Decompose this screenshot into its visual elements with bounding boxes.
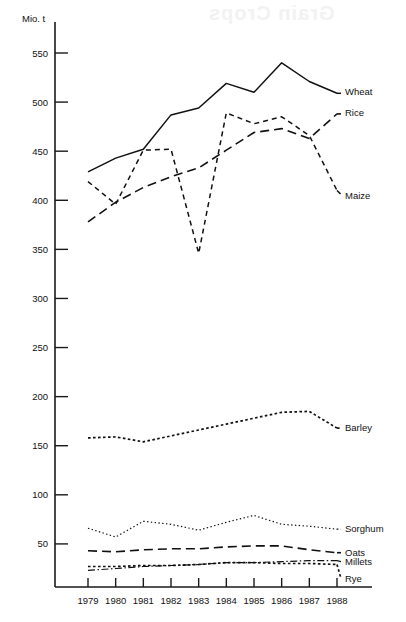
series-label-wheat: Wheat [345, 86, 373, 97]
y-axis-ticks [55, 53, 68, 544]
y-tick-label: 550 [32, 48, 48, 59]
x-tick-label: 1985 [243, 595, 264, 606]
grain-production-line-chart: Grain Crops Mio. t 501001502002503003504… [0, 0, 406, 622]
y-tick-label: 450 [32, 146, 48, 157]
x-tick-label: 1982 [160, 595, 181, 606]
series-line-wheat [88, 63, 337, 172]
y-tick-label: 300 [32, 293, 48, 304]
series-leader-millets [337, 561, 341, 562]
x-tick-label: 1984 [216, 595, 237, 606]
y-tick-label: 200 [32, 391, 48, 402]
x-tick-label: 1979 [77, 595, 98, 606]
x-tick-label: 1988 [326, 595, 347, 606]
series-leader-rye [337, 565, 341, 579]
series-label-rice: Rice [345, 107, 364, 118]
series-lines-group [88, 63, 341, 579]
series-leader-maize [337, 191, 341, 195]
series-label-millets: Millets [345, 556, 372, 567]
x-tick-label: 1980 [105, 595, 126, 606]
y-axis-tick-labels: 50100150200250300350400450500550 [32, 48, 48, 550]
x-tick-label: 1981 [133, 595, 154, 606]
series-line-oats [88, 546, 337, 553]
y-tick-label: 400 [32, 195, 48, 206]
series-line-maize [88, 113, 337, 253]
y-tick-label: 350 [32, 244, 48, 255]
y-axis-unit-label: Mio. t [22, 13, 46, 24]
series-label-rye: Rye [345, 573, 362, 584]
series-label-sorghum: Sorghum [345, 523, 384, 534]
y-tick-label: 150 [32, 440, 48, 451]
x-tick-label: 1983 [188, 595, 209, 606]
series-line-barley [88, 411, 337, 441]
x-axis-tick-labels: 1979198019811982198319841985198619871988 [77, 595, 347, 606]
series-inline-labels-group: WheatRiceMaizeBarleySorghumOatsMilletsRy… [345, 86, 384, 583]
x-axis-ticks [88, 578, 337, 587]
series-label-barley: Barley [345, 422, 372, 433]
series-line-sorghum [88, 515, 337, 537]
series-line-rice [88, 114, 337, 222]
y-tick-label: 50 [37, 538, 48, 549]
page-bleedthrough-watermark: Grain Crops [208, 2, 335, 25]
y-tick-label: 100 [32, 489, 48, 500]
series-label-maize: Maize [345, 190, 370, 201]
x-tick-label: 1986 [271, 595, 292, 606]
y-tick-label: 500 [32, 97, 48, 108]
chart-canvas: Mio. t 50100150200250300350400450500550 … [0, 0, 406, 622]
y-tick-label: 250 [32, 342, 48, 353]
x-tick-label: 1987 [299, 595, 320, 606]
